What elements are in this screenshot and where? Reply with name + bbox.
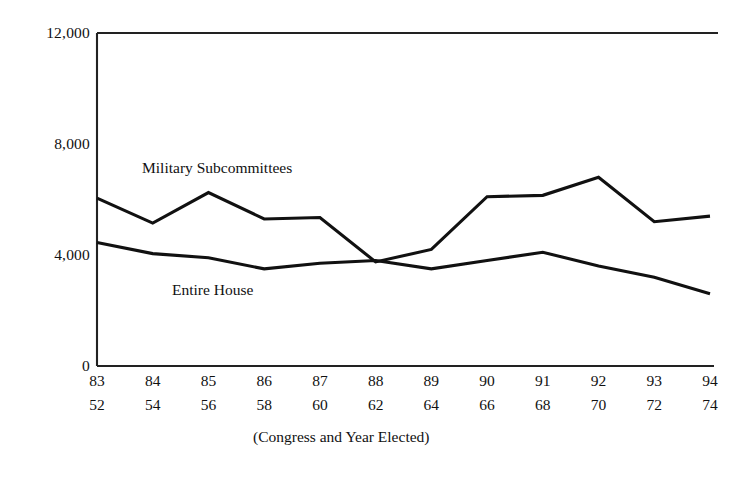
x-tick-year-70: 70 xyxy=(577,396,621,414)
x-tick-year-58: 58 xyxy=(242,396,286,414)
series-line-military-subcommittees xyxy=(97,177,710,262)
x-tick-congress-86: 86 xyxy=(242,372,286,390)
x-tick-congress-88: 88 xyxy=(354,372,398,390)
y-axis-tick-8000: 8,000 xyxy=(12,135,90,153)
x-tick-year-60: 60 xyxy=(298,396,342,414)
x-tick-congress-92: 92 xyxy=(577,372,621,390)
y-axis-tick-4000: 4,000 xyxy=(12,246,90,264)
x-tick-year-74: 74 xyxy=(688,396,732,414)
x-tick-congress-91: 91 xyxy=(521,372,565,390)
x-tick-congress-84: 84 xyxy=(131,372,175,390)
series-label-entire-house: Entire House xyxy=(172,281,253,299)
x-tick-year-64: 64 xyxy=(409,396,453,414)
line-chart: 12,000 8,000 4,000 0 8384858687888990919… xyxy=(0,0,756,481)
x-tick-year-72: 72 xyxy=(632,396,676,414)
x-tick-year-68: 68 xyxy=(521,396,565,414)
x-tick-congress-89: 89 xyxy=(409,372,453,390)
x-tick-congress-94: 94 xyxy=(688,372,732,390)
x-tick-congress-83: 83 xyxy=(75,372,119,390)
x-tick-year-66: 66 xyxy=(465,396,509,414)
x-tick-congress-93: 93 xyxy=(632,372,676,390)
x-tick-year-52: 52 xyxy=(75,396,119,414)
x-tick-congress-87: 87 xyxy=(298,372,342,390)
series-lines xyxy=(97,177,710,294)
series-label-military-subcommittees: Military Subcommittees xyxy=(142,159,292,177)
x-tick-year-56: 56 xyxy=(186,396,230,414)
x-tick-year-62: 62 xyxy=(354,396,398,414)
x-tick-congress-85: 85 xyxy=(186,372,230,390)
y-axis-tick-12000: 12,000 xyxy=(12,24,90,42)
x-tick-year-54: 54 xyxy=(131,396,175,414)
x-axis-caption: (Congress and Year Elected) xyxy=(253,428,429,446)
x-tick-congress-90: 90 xyxy=(465,372,509,390)
